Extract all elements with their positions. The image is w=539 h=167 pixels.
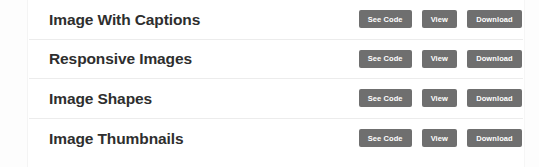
see-code-button[interactable]: See Code: [359, 129, 412, 147]
download-button[interactable]: Download: [467, 10, 522, 28]
page-left-gutter: [0, 0, 28, 167]
list-item-actions: See Code View Download: [359, 89, 523, 107]
component-list: Image With Captions See Code View Downlo…: [29, 0, 523, 167]
list-item-title: Image Thumbnails: [49, 131, 183, 147]
download-button[interactable]: Download: [467, 89, 522, 107]
list-item-actions: See Code View Download: [359, 10, 523, 28]
list-item[interactable]: Responsive Images See Code View Download: [29, 40, 523, 80]
list-item-actions: See Code View Download: [359, 129, 523, 147]
list-item-actions: See Code View Download: [359, 50, 523, 68]
list-item-title: Responsive Images: [49, 51, 192, 67]
download-button[interactable]: Download: [467, 50, 522, 68]
list-item[interactable]: Image Shapes See Code View Download: [29, 79, 523, 119]
see-code-button[interactable]: See Code: [359, 89, 412, 107]
view-button[interactable]: View: [422, 89, 457, 107]
list-item[interactable]: Image With Captions See Code View Downlo…: [29, 0, 523, 40]
see-code-button[interactable]: See Code: [359, 10, 412, 28]
component-list-page: Image With Captions See Code View Downlo…: [0, 0, 539, 167]
view-button[interactable]: View: [422, 129, 457, 147]
list-item-title: Image With Captions: [49, 12, 200, 28]
page-right-gutter: [524, 0, 539, 167]
list-item-title: Image Shapes: [49, 91, 152, 107]
list-item[interactable]: Image Thumbnails See Code View Download: [29, 119, 523, 159]
download-button[interactable]: Download: [467, 129, 522, 147]
see-code-button[interactable]: See Code: [359, 50, 412, 68]
view-button[interactable]: View: [422, 50, 457, 68]
view-button[interactable]: View: [422, 10, 457, 28]
